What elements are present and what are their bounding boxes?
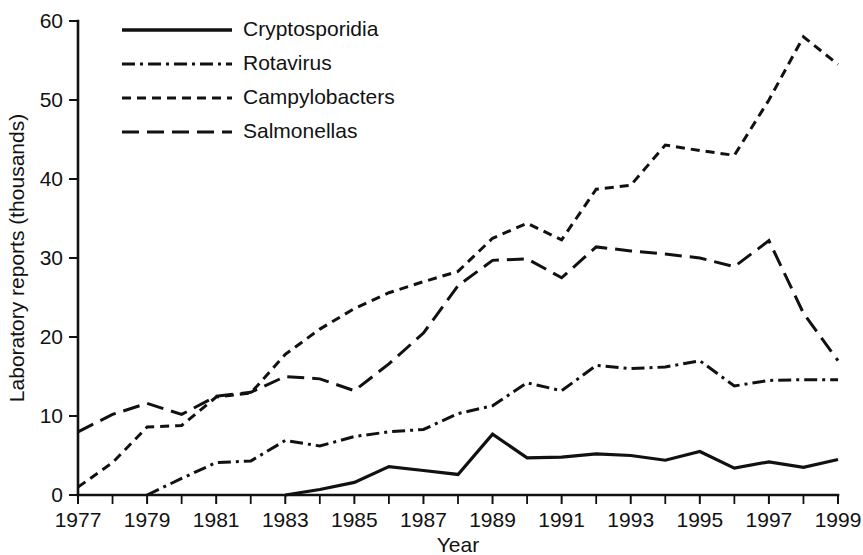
line-chart: 0102030405060 19771979198119831985198719… <box>0 0 863 555</box>
series-line-rotavirus <box>147 361 838 495</box>
y-tick-label: 50 <box>40 88 63 111</box>
chart-legend: CryptosporidiaRotavirusCampylobactersSal… <box>122 17 395 142</box>
legend-label-salmonellas: Salmonellas <box>243 119 357 142</box>
x-tick-label: 1983 <box>262 508 309 531</box>
series-lines <box>78 37 838 495</box>
x-tick-label: 1979 <box>124 508 171 531</box>
y-axis-ticks: 0102030405060 <box>40 9 78 506</box>
x-tick-label: 1997 <box>746 508 793 531</box>
x-tick-label: 1981 <box>193 508 240 531</box>
y-tick-label: 20 <box>40 325 63 348</box>
x-tick-label: 1991 <box>538 508 585 531</box>
x-axis-title: Year <box>437 533 479 555</box>
x-tick-label: 1987 <box>400 508 447 531</box>
y-tick-label: 10 <box>40 404 63 427</box>
y-tick-label: 0 <box>51 483 63 506</box>
x-axis-ticks: 1977197919811983198519871989199119931995… <box>55 495 862 531</box>
x-tick-label: 1985 <box>331 508 378 531</box>
y-tick-label: 30 <box>40 246 63 269</box>
x-tick-label: 1999 <box>815 508 862 531</box>
chart-figure: 0102030405060 19771979198119831985198719… <box>0 0 863 555</box>
y-tick-label: 60 <box>40 9 63 32</box>
x-tick-label: 1989 <box>469 508 516 531</box>
x-tick-label: 1977 <box>55 508 102 531</box>
series-line-campylobacters <box>78 37 838 487</box>
x-tick-label: 1995 <box>676 508 723 531</box>
x-tick-label: 1993 <box>607 508 654 531</box>
y-tick-label: 40 <box>40 167 63 190</box>
legend-label-campylobacters: Campylobacters <box>243 85 395 108</box>
series-line-salmonellas <box>78 241 838 432</box>
legend-label-cryptosporidia: Cryptosporidia <box>243 17 379 40</box>
y-axis-title: Laboratory reports (thousands) <box>5 114 28 402</box>
legend-label-rotavirus: Rotavirus <box>243 51 332 74</box>
series-line-cryptosporidia <box>285 434 838 495</box>
